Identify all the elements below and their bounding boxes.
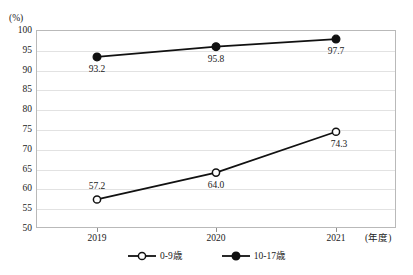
y-axis-tick-label: 80	[6, 104, 32, 114]
chart-legend: 0-9歳10-17歳	[0, 250, 413, 262]
data-point-value-label: 95.8	[196, 54, 236, 65]
x-axis-unit-label: (年度)	[365, 232, 391, 244]
line-chart: (%) 50556065707580859095100 201920202021…	[0, 0, 413, 275]
gridline	[37, 150, 395, 151]
y-axis-tick-label: 60	[6, 183, 32, 193]
data-point-value-label: 97.7	[316, 46, 356, 57]
gridline	[37, 209, 395, 210]
x-axis-tick-label: 2021	[311, 232, 361, 244]
y-axis-tick-label: 85	[6, 84, 32, 94]
filled-circle-icon	[221, 250, 251, 262]
gridline	[37, 110, 395, 111]
y-axis-unit-label: (%)	[9, 12, 23, 24]
y-axis-tick-label: 90	[6, 65, 32, 75]
legend-label: 10-17歳	[254, 250, 286, 262]
y-axis-tick-label: 75	[6, 124, 32, 134]
gridline	[37, 170, 395, 171]
y-axis-tick-label: 55	[6, 203, 32, 213]
data-point-value-label: 57.2	[77, 181, 117, 192]
y-axis-tick-label: 50	[6, 223, 32, 233]
y-axis-tick-label: 65	[6, 164, 32, 174]
gridline	[37, 90, 395, 91]
x-axis-tick-label: 2019	[72, 232, 122, 244]
open-circle-icon	[127, 250, 157, 262]
y-axis-tick-label: 100	[6, 25, 32, 35]
data-point-value-label: 74.3	[319, 139, 359, 150]
y-axis-tick-label: 95	[6, 45, 32, 55]
legend-item-age-10-17[interactable]: 10-17歳	[221, 250, 286, 262]
legend-label: 0-9歳	[160, 250, 183, 262]
data-point-value-label: 93.2	[77, 64, 117, 75]
legend-item-age-0-9[interactable]: 0-9歳	[127, 250, 183, 262]
gridline	[37, 130, 395, 131]
data-point-value-label: 64.0	[196, 180, 236, 191]
x-axis-tick-label: 2020	[191, 232, 241, 244]
y-axis-tick-label: 70	[6, 144, 32, 154]
